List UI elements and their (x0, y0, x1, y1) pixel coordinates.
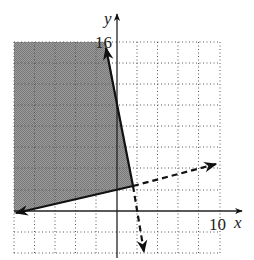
y-tick-label: 16 (95, 33, 112, 52)
dashed-right-line (133, 164, 216, 186)
dashed-down-line (133, 186, 144, 252)
x-axis-label: x (233, 213, 242, 232)
graph: y 16 10 x (0, 0, 254, 260)
x-tick-label: 10 (209, 215, 226, 234)
y-axis-label: y (102, 9, 112, 28)
shaded-region (14, 42, 133, 213)
